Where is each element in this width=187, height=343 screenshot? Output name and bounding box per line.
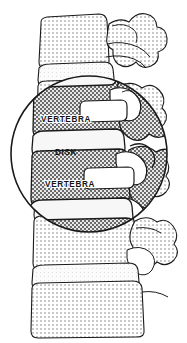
vertebral-body-5: [31, 281, 144, 338]
vertebra-upper-label: VERTEBRA: [41, 115, 91, 124]
spine-illustration-figure: VERTEBRA DISK VERTEBRA: [0, 0, 187, 343]
vertebra-lower-label: VERTEBRA: [45, 180, 95, 189]
spine-diagram-svg: VERTEBRA DISK VERTEBRA: [0, 0, 187, 343]
vertebral-body-1: [39, 14, 109, 69]
disk-label: DISK: [55, 148, 77, 157]
